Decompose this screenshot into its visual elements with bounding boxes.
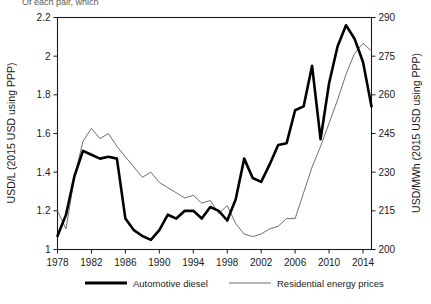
chart-svg: 11.21.41.61.822.2 200215230245260275290 … xyxy=(0,0,431,304)
series-line-automotive-diesel xyxy=(58,25,372,240)
plot-frame xyxy=(58,18,372,250)
legend-label-automotive-diesel: Automotive diesel xyxy=(133,278,208,289)
y2-axis-title: USD/MWh (2015 USD using PPP) xyxy=(410,53,422,213)
y-ticklabel-4: 1.8 xyxy=(37,89,51,100)
x-ticklabel-8: 2010 xyxy=(318,257,341,268)
x-ticklabel-7: 2006 xyxy=(284,257,307,268)
left-axis-ticks: 11.21.41.61.822.2 xyxy=(37,12,58,255)
y2-ticklabel-2: 230 xyxy=(379,167,396,178)
x-ticklabel-9: 2014 xyxy=(352,257,375,268)
legend: Automotive diesel Residential energy pri… xyxy=(85,278,384,289)
y-ticklabel-1: 1.2 xyxy=(37,205,51,216)
x-axis-ticks: 1978198219861990199419982002200620102014 xyxy=(46,250,374,268)
y-axis-title: USD/L (2015 USD using PPP) xyxy=(5,63,17,204)
y2-ticklabel-3: 245 xyxy=(379,128,396,139)
right-axis-ticks: 200215230245260275290 xyxy=(372,12,396,255)
figure-container: Of each pair, which 11.21.41.61.822.2 20… xyxy=(0,0,431,304)
x-ticklabel-5: 1998 xyxy=(216,257,239,268)
x-ticklabel-3: 1990 xyxy=(148,257,171,268)
x-ticklabel-0: 1978 xyxy=(46,257,69,268)
y2-ticklabel-4: 260 xyxy=(379,89,396,100)
y2-ticklabel-1: 215 xyxy=(379,205,396,216)
x-ticklabel-2: 1986 xyxy=(114,257,137,268)
figure-caption-truncated: Of each pair, which xyxy=(22,0,282,8)
x-ticklabel-4: 1994 xyxy=(182,257,205,268)
y-ticklabel-3: 1.6 xyxy=(37,128,51,139)
y-ticklabel-5: 2 xyxy=(45,51,51,62)
y-ticklabel-0: 1 xyxy=(45,244,51,255)
legend-label-residential-energy-prices: Residential energy prices xyxy=(277,278,384,289)
y-ticklabel-2: 1.4 xyxy=(37,167,51,178)
x-ticklabel-6: 2002 xyxy=(250,257,273,268)
y2-ticklabel-0: 200 xyxy=(379,244,396,255)
y2-ticklabel-6: 290 xyxy=(379,12,396,23)
x-ticklabel-1: 1982 xyxy=(80,257,103,268)
y-ticklabel-6: 2.2 xyxy=(37,12,51,23)
y2-ticklabel-5: 275 xyxy=(379,51,396,62)
